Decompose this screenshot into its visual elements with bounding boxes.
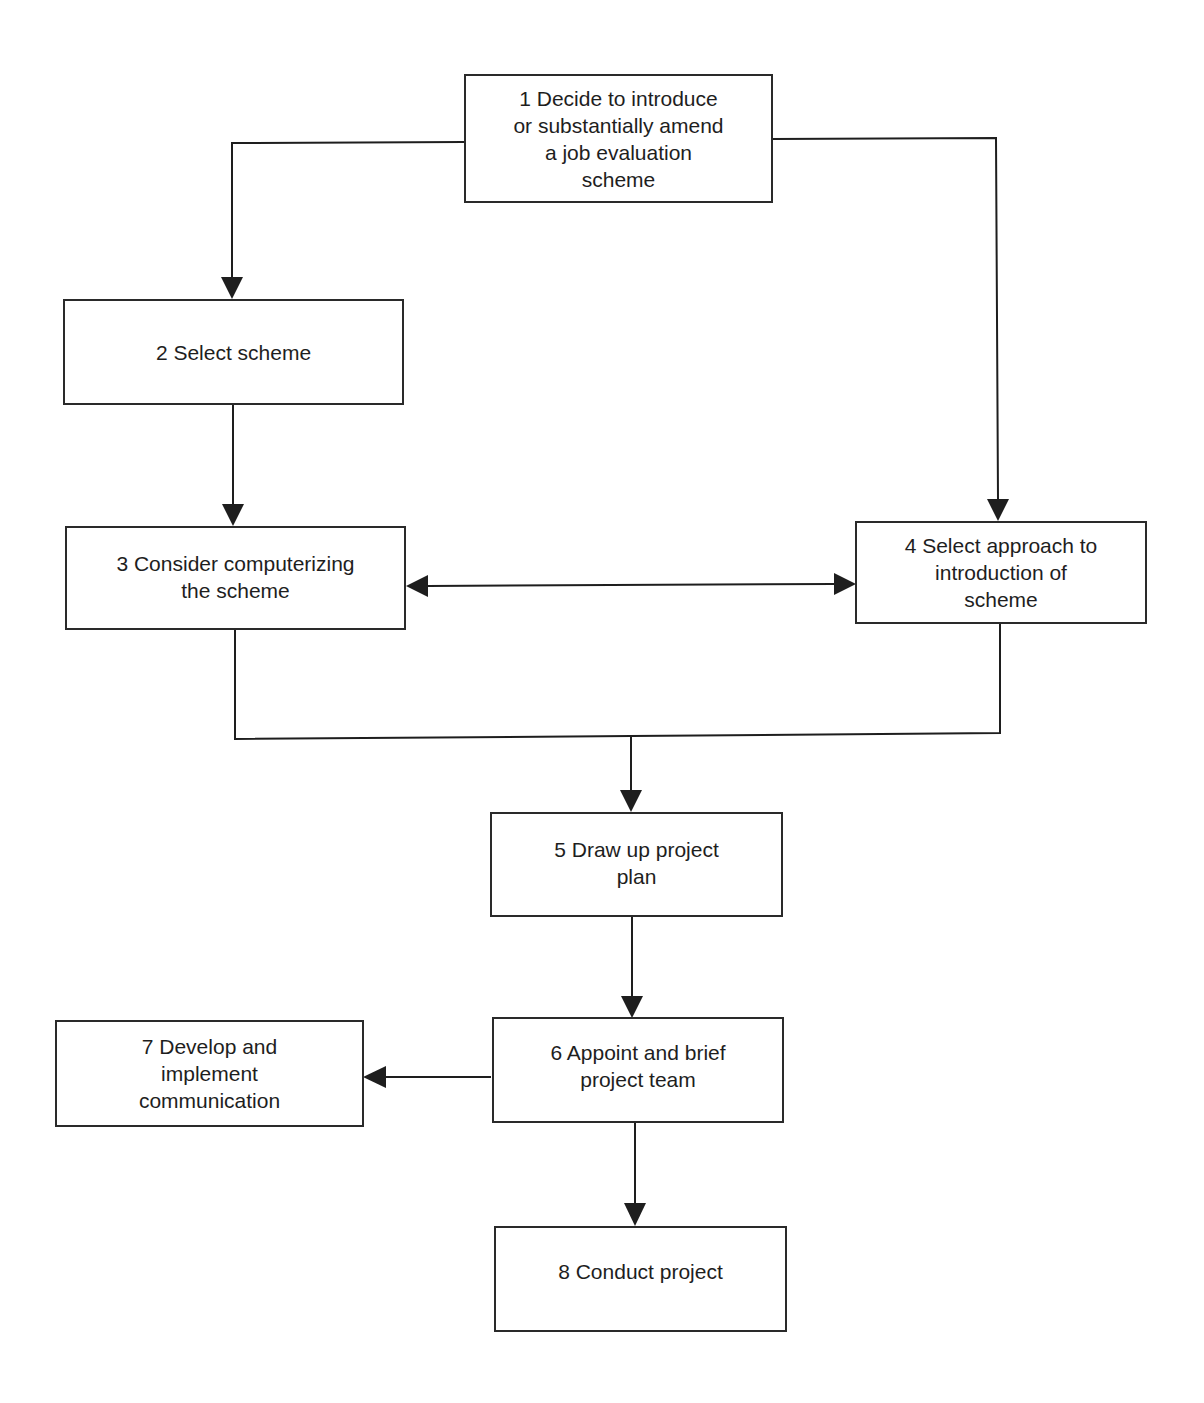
arrowhead-down-icon — [987, 499, 1009, 521]
edge-1-to-4 — [772, 138, 998, 500]
connector-lines — [0, 0, 1204, 1403]
step-1-label: 1 Decide to introduce or substantially a… — [513, 85, 723, 193]
step-3-computerize-box: 3 Consider computerizing the scheme — [65, 526, 406, 630]
step-8-label: 8 Conduct project — [558, 1258, 723, 1285]
arrowhead-down-icon — [624, 1203, 646, 1226]
arrowhead-down-icon — [620, 790, 642, 812]
arrowhead-down-icon — [221, 277, 243, 299]
step-3-label: 3 Consider computerizing the scheme — [116, 550, 354, 604]
arrowhead-left-icon — [406, 575, 428, 597]
edge-4-merge — [631, 624, 1000, 736]
step-8-conduct-project-box: 8 Conduct project — [494, 1226, 787, 1332]
step-6-project-team-box: 6 Appoint and brief project team — [492, 1017, 784, 1123]
step-5-project-plan-box: 5 Draw up project plan — [490, 812, 783, 917]
step-5-label: 5 Draw up project plan — [554, 836, 719, 890]
step-6-label: 6 Appoint and brief project team — [550, 1039, 725, 1093]
arrowhead-right-icon — [834, 573, 856, 595]
edge-3-to-4-bidirectional — [428, 584, 834, 586]
step-4-label: 4 Select approach to introduction of sch… — [905, 532, 1098, 613]
step-7-label: 7 Develop and implement communication — [139, 1033, 280, 1114]
step-2-label: 2 Select scheme — [156, 339, 311, 366]
edge-3-merge — [235, 630, 631, 739]
arrowhead-left-icon — [363, 1066, 386, 1088]
step-1-decide-box: 1 Decide to introduce or substantially a… — [464, 74, 773, 203]
edge-1-to-2 — [232, 142, 464, 280]
step-7-communication-box: 7 Develop and implement communication — [55, 1020, 364, 1127]
arrowhead-down-icon — [621, 996, 643, 1018]
step-4-select-approach-box: 4 Select approach to introduction of sch… — [855, 521, 1147, 624]
step-2-select-scheme-box: 2 Select scheme — [63, 299, 404, 405]
arrowhead-down-icon — [222, 504, 244, 526]
